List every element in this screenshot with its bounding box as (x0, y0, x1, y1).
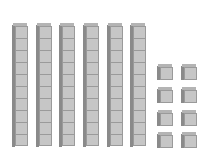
rod-segment (134, 87, 145, 99)
cube-front-face (160, 135, 173, 148)
rod-segment (111, 27, 122, 39)
rod-segment (40, 63, 51, 75)
rod-segment (40, 51, 51, 63)
rod-segment (87, 135, 98, 147)
rod-segment (63, 135, 74, 147)
rod-segment (134, 99, 145, 111)
tens-rod (59, 23, 75, 147)
tens-rod (36, 23, 52, 147)
rod-segment (63, 75, 74, 87)
rod-segment (87, 51, 98, 63)
rod-segment (63, 99, 74, 111)
tens-rod (130, 23, 146, 147)
rod-segment (63, 39, 74, 51)
cube-front-face (184, 90, 197, 103)
rod-segment (111, 111, 122, 123)
rod-segment (134, 63, 145, 75)
unit-cube (181, 64, 197, 80)
rod-segment (16, 51, 27, 63)
rod-segment (63, 123, 74, 135)
tens-rod (12, 23, 28, 147)
unit-cube (181, 132, 197, 148)
rod-segment (16, 39, 27, 51)
rod-segment (40, 27, 51, 39)
unit-cube (181, 87, 197, 103)
rod-segment (63, 63, 74, 75)
rod-front-face (86, 26, 99, 146)
rod-segment (111, 39, 122, 51)
rod-segment (87, 111, 98, 123)
rod-segment (40, 123, 51, 135)
rod-segment (16, 75, 27, 87)
rod-segment (87, 27, 98, 39)
rod-segment (40, 111, 51, 123)
rod-segment (111, 51, 122, 63)
rod-segment (16, 87, 27, 99)
rod-segment (134, 75, 145, 87)
unit-cube (157, 64, 173, 80)
rod-segment (40, 87, 51, 99)
rod-segment (134, 39, 145, 51)
rod-segment (134, 111, 145, 123)
rod-segment (87, 75, 98, 87)
rod-segment (111, 63, 122, 75)
rod-segment (134, 27, 145, 39)
cube-front-face (160, 67, 173, 80)
rod-segment (111, 135, 122, 147)
rod-segment (111, 123, 122, 135)
rod-segment (134, 135, 145, 147)
rod-segment (134, 51, 145, 63)
tens-rod (107, 23, 123, 147)
rod-front-face (133, 26, 146, 146)
rod-segment (87, 63, 98, 75)
rod-front-face (39, 26, 52, 146)
rod-segment (63, 51, 74, 63)
cube-front-face (160, 113, 173, 126)
rod-segment (87, 123, 98, 135)
cube-front-face (184, 113, 197, 126)
rod-segment (111, 87, 122, 99)
rod-segment (40, 135, 51, 147)
unit-cube (157, 132, 173, 148)
rod-segment (16, 27, 27, 39)
rod-front-face (62, 26, 75, 146)
cube-front-face (184, 67, 197, 80)
rod-segment (87, 99, 98, 111)
rod-segment (40, 39, 51, 51)
rod-segment (63, 27, 74, 39)
cube-front-face (184, 135, 197, 148)
rod-segment (40, 99, 51, 111)
rod-segment (134, 123, 145, 135)
rod-segment (16, 135, 27, 147)
rod-segment (111, 99, 122, 111)
rod-front-face (15, 26, 28, 146)
rod-segment (16, 99, 27, 111)
unit-cube (157, 87, 173, 103)
cube-front-face (160, 90, 173, 103)
tens-rod (83, 23, 99, 147)
rod-segment (87, 87, 98, 99)
rod-segment (16, 123, 27, 135)
rod-segment (63, 111, 74, 123)
rod-segment (40, 75, 51, 87)
unit-cube (181, 110, 197, 126)
rod-front-face (110, 26, 123, 146)
unit-cube (157, 110, 173, 126)
rod-segment (16, 111, 27, 123)
rod-segment (111, 75, 122, 87)
rod-segment (63, 87, 74, 99)
rod-segment (16, 63, 27, 75)
rod-segment (87, 39, 98, 51)
